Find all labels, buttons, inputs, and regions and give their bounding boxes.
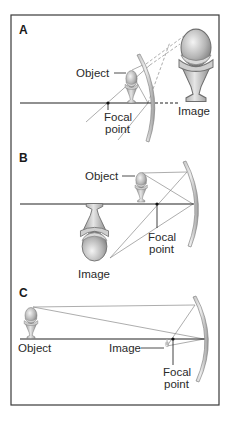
object-label: Object xyxy=(18,342,52,354)
focal-label-line1: Focal xyxy=(163,366,191,378)
image-label: Image xyxy=(109,342,141,354)
panel-c: C Object Image Focal point xyxy=(18,286,208,390)
focal-label-line1: Focal xyxy=(148,231,176,243)
panel-c-label: C xyxy=(19,286,28,300)
panel-b-label: B xyxy=(19,151,28,165)
object-sundae xyxy=(24,308,38,339)
image-sundae-inverted xyxy=(80,204,108,262)
image-sundae-reduced xyxy=(165,340,168,347)
ray xyxy=(167,305,195,346)
focal-label-line2: point xyxy=(105,123,131,135)
object-label: Object xyxy=(85,170,119,182)
object-sundae xyxy=(135,173,147,203)
focal-label-line2: point xyxy=(149,243,175,255)
focal-label-line2: point xyxy=(164,378,190,390)
ray xyxy=(33,305,195,307)
image-label: Image xyxy=(178,105,210,117)
ray xyxy=(142,172,187,173)
panel-a-label: A xyxy=(19,23,28,37)
object-sundae xyxy=(125,71,138,103)
ray xyxy=(142,173,193,204)
panel-a: A Object Focal point Image xyxy=(19,23,213,142)
ray xyxy=(33,307,204,339)
image-label: Image xyxy=(78,268,110,280)
concave-mirror-figure: A Object Focal point Image B xyxy=(0,0,229,421)
focal-label-line1: Focal xyxy=(104,111,132,123)
image-sundae-enlarged xyxy=(179,29,213,101)
virtual-ray xyxy=(150,44,180,65)
object-label: Object xyxy=(76,67,110,79)
panel-b: B Object Focal point Image xyxy=(19,151,198,280)
concave-mirror xyxy=(137,54,155,142)
